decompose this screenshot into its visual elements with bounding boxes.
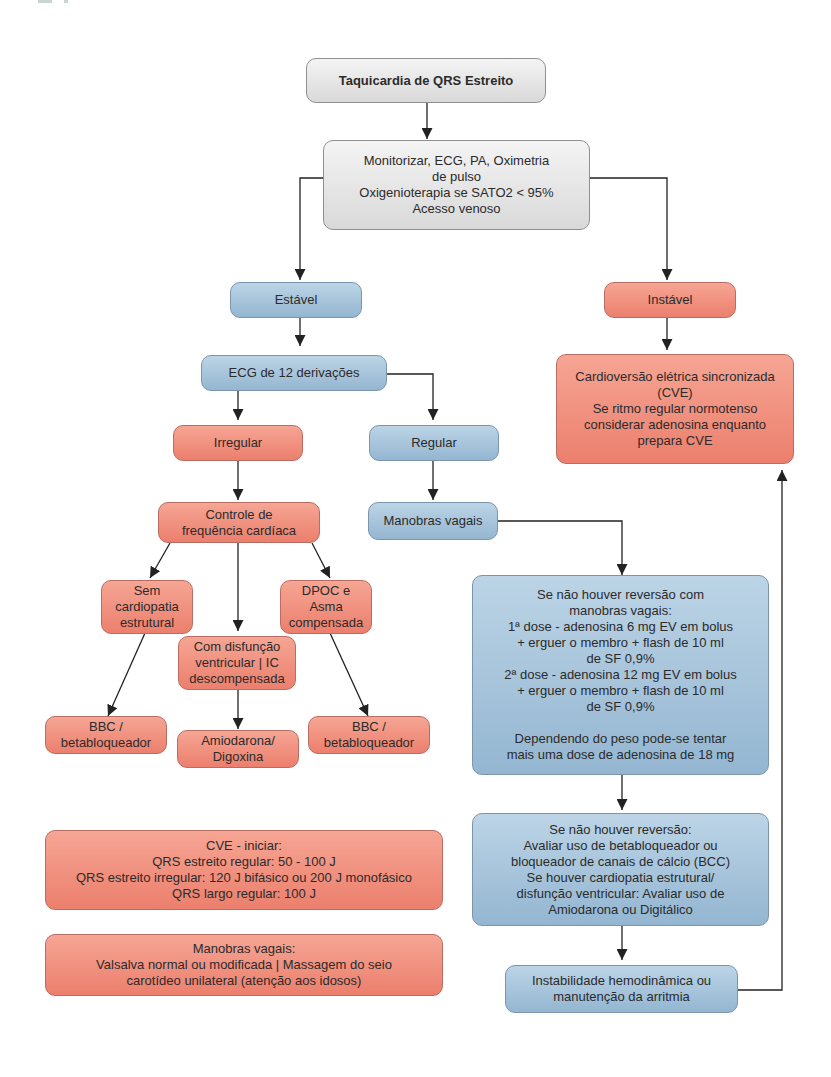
node-amiodarone-digoxin: Amiodarona/ Digoxina: [177, 730, 299, 768]
node-vagal-maneuvers: Manobras vagais: [368, 502, 498, 540]
node-start: Taquicardia de QRS Estreito: [306, 58, 546, 103]
node-regular: Regular: [369, 425, 499, 461]
note-vagal-maneuvers: Manobras vagais: Valsalva normal ou modi…: [45, 934, 443, 996]
node-rate-control: Controle de frequência cardíaca: [158, 502, 320, 543]
node-no-reversion: Se não houver reversão: Avaliar uso de b…: [472, 813, 769, 926]
node-cve: Cardioversão elétrica sincronizada (CVE)…: [556, 354, 794, 464]
node-no-structural-disease: Sem cardiopatia estrutural: [101, 580, 193, 634]
node-irregular: Irregular: [173, 425, 303, 461]
node-unstable: Instável: [604, 282, 736, 318]
node-ecg-12: ECG de 12 derivações: [201, 355, 387, 391]
node-adenosine: Se não houver reversão com manobras vaga…: [472, 575, 769, 775]
node-monitor: Monitorizar, ECG, PA, Oximetria de pulso…: [323, 140, 590, 230]
node-ventricular-dysfunction: Com disfunção ventricular | IC descompen…: [178, 636, 296, 690]
node-instability: Instabilidade hemodinâmica ou manutenção…: [505, 965, 738, 1013]
node-bbc-left: BBC / betabloqueador: [45, 716, 167, 754]
node-bbc-right: BBC / betabloqueador: [308, 716, 430, 754]
node-stable: Estável: [230, 282, 362, 318]
note-cve-energy: CVE - iniciar: QRS estreito regular: 50 …: [45, 830, 443, 910]
node-copd-asthma: DPOC e Asma compensada: [280, 580, 372, 634]
